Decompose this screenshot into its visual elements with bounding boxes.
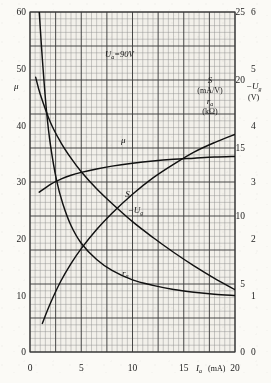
outer-right-axis-tick: 1 [251, 291, 256, 301]
outer-right-axis-tick: 0 [251, 347, 256, 357]
x-axis-tick: 15 [179, 363, 189, 373]
inner-right-axis-tick: 20 [236, 75, 246, 85]
svg-text:(mA): (mA) [208, 364, 226, 373]
x-axis-tick: 10 [128, 363, 138, 373]
svg-text:S: S [125, 189, 130, 199]
left-axis-tick: 0 [21, 347, 26, 357]
x-axis-tick: 0 [28, 363, 33, 373]
inner-right-axis-tick: 15 [236, 143, 246, 153]
svg-text:(V): (V) [248, 93, 259, 102]
left-axis-tick: 20 [17, 234, 27, 244]
curve-label-: μ [120, 135, 126, 145]
left-axis-caption: μ [13, 81, 19, 91]
svg-text:μ: μ [120, 135, 126, 145]
inner-right-axis-tick: 25 [236, 7, 246, 17]
left-axis-tick: 60 [17, 7, 27, 17]
svg-text:(mA/V): (mA/V) [197, 86, 223, 95]
left-axis-tick: 30 [17, 177, 27, 187]
x-axis-tick: 20 [230, 363, 240, 373]
outer-right-axis-tick: 5 [251, 64, 256, 74]
left-axis-tick: 40 [17, 121, 27, 131]
characteristic-curve-chart: 01020304050600510152025012345605101520 μ… [0, 0, 271, 383]
outer-right-axis-tick: 3 [251, 177, 256, 187]
svg-text:(kΩ): (kΩ) [202, 107, 218, 116]
inner-right-axis-tick: 5 [240, 279, 245, 289]
inner-right-axis-tick: 10 [236, 211, 246, 221]
operating-point-annotation: Ua=90V [105, 49, 135, 60]
left-axis-tick: 50 [17, 64, 27, 74]
curve-label-S: S [125, 189, 130, 199]
outer-right-axis-tick: 6 [251, 7, 256, 17]
outer-right-axis-tick: 2 [251, 234, 256, 244]
outer-right-axis-tick: 4 [251, 121, 256, 131]
figure-root: 01020304050600510152025012345605101520 μ… [0, 0, 271, 383]
svg-text:S: S [208, 75, 213, 85]
left-axis-tick: 10 [17, 291, 27, 301]
x-axis-tick: 5 [79, 363, 84, 373]
inner-right-axis-tick: 0 [240, 347, 245, 357]
